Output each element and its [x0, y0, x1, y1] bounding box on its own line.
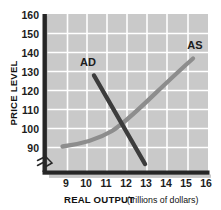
- y-tick-labels: 160 150 140 130 120 110 100 90: [21, 9, 39, 154]
- y-tick-label: 150: [21, 28, 39, 40]
- as-curve-label: AS: [187, 39, 202, 51]
- y-tick-label: 160: [21, 9, 39, 21]
- x-tick-label: 15: [180, 177, 192, 189]
- x-tick-labels: 9 10 11 12 13 14 15 16: [63, 177, 212, 189]
- y-tick-label: 140: [21, 47, 39, 59]
- x-tick-label: 14: [160, 177, 172, 189]
- x-axis-title: REAL OUTPUT: [64, 194, 134, 205]
- x-axis-title-units: (trillions of dollars): [127, 195, 198, 205]
- ad-curve-label: AD: [80, 56, 96, 68]
- x-tick-label: 16: [200, 177, 212, 189]
- y-tick-label: 110: [22, 104, 39, 116]
- y-tick-label: 120: [21, 85, 39, 97]
- x-tick-label: 9: [63, 177, 69, 189]
- y-tick-label: 100: [21, 123, 39, 135]
- y-axis-title: PRICE LEVEL: [8, 60, 19, 125]
- y-axis-spine: [43, 14, 47, 172]
- x-axis-spine: [43, 171, 210, 175]
- x-tick-label: 12: [120, 177, 132, 189]
- y-tick-label: 130: [21, 66, 39, 78]
- x-tick-label: 10: [80, 177, 92, 189]
- y-tick-label: 90: [27, 142, 39, 154]
- x-tick-label: 13: [140, 177, 152, 189]
- aggregate-supply-demand-chart: 160 150 140 130 120 110 100 90 9 10 11 1…: [0, 0, 221, 210]
- x-tick-label: 11: [100, 177, 111, 189]
- chart-svg: 160 150 140 130 120 110 100 90 9 10 11 1…: [0, 0, 221, 210]
